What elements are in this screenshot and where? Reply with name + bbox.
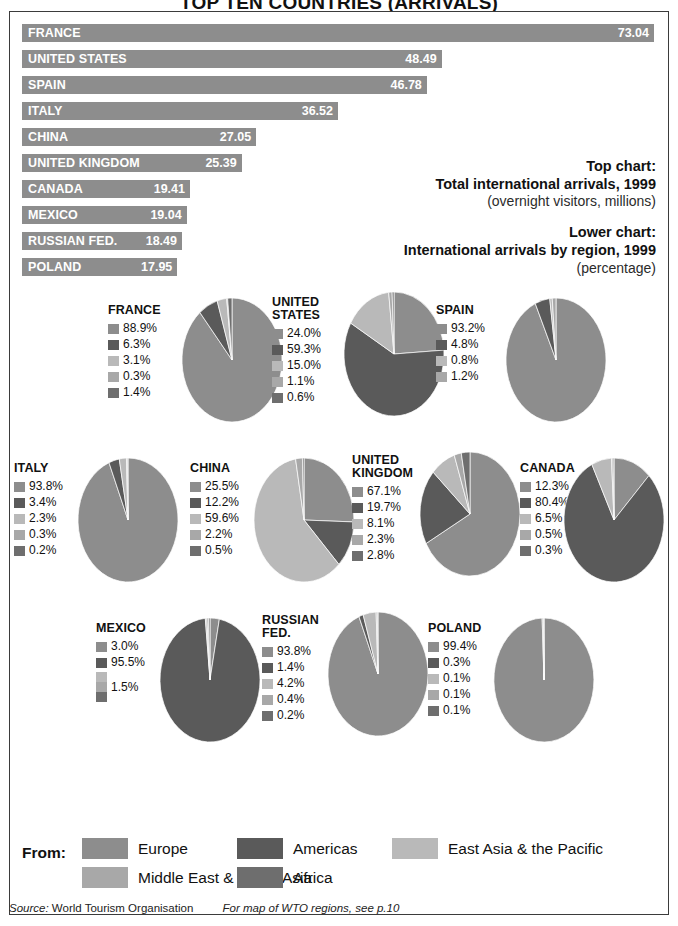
bar-value: 36.52 [302,102,333,120]
pie-legend-value: 0.3% [443,656,470,669]
legend-item-label: Europe [138,840,188,858]
bar: SPAIN46.78 [22,76,427,94]
lower-chart-label: Lower chart: [256,224,656,242]
bar-row: ITALY36.52 [22,102,654,120]
bar-row: UNITED STATES48.49 [22,50,654,68]
infographic-page: TOP TEN COUNTRIES (ARRIVALS) FRANCE73.04… [0,0,678,926]
bar-label: ITALY [28,102,63,120]
lower-chart-title: International arrivals by region, 1999 [256,242,656,260]
bar-value: 73.04 [618,24,649,42]
legend-swatch-icon [428,674,439,684]
lower-chart-subtitle: (percentage) [256,260,656,277]
bar-label: UNITED KINGDOM [28,154,140,172]
bar: POLAND17.95 [22,258,177,276]
bar-label: POLAND [28,258,81,276]
bar: CANADA19.41 [22,180,190,198]
caption-spacer [256,210,656,224]
legend-swatch-icon [428,690,439,700]
bar-value: 18.49 [146,232,177,250]
bar-value: 25.39 [205,154,236,172]
legend-item: Europe [82,838,188,859]
pie-legend-value: 0.1% [443,704,470,717]
legend-swatch-icon [428,642,439,652]
bar-label: RUSSIAN FED. [28,232,117,250]
bar-label: CANADA [28,180,83,198]
bar-label: MEXICO [28,206,78,224]
bar-value: 46.78 [391,76,422,94]
pie-graphic [492,616,596,744]
bar-label: FRANCE [28,24,81,42]
bar: UNITED KINGDOM25.39 [22,154,242,172]
bar-row: FRANCE73.04 [22,24,654,42]
bar-value: 19.04 [150,206,181,224]
pie-legend-value: 99.4% [443,640,477,653]
legend-from-label: From: [22,844,66,862]
bar-row: SPAIN46.78 [22,76,654,94]
bar: UNITED STATES48.49 [22,50,442,68]
legend-item-label: Africa [293,869,333,887]
legend-color-swatch-icon [392,838,438,859]
legend-color-swatch-icon [237,867,283,888]
pie-legend-value: 0.1% [443,688,470,701]
source-line: Source: World Tourism Organisation For m… [9,902,669,914]
legend-swatch-icon [428,706,439,716]
pie-legend-value: 0.1% [443,672,470,685]
legend-color-swatch-icon [82,867,128,888]
legend-item: East Asia & the Pacific [392,838,603,859]
legend-item: Americas [237,838,358,859]
bar-value: 48.49 [405,50,436,68]
legend-color-swatch-icon [237,838,283,859]
legend-item: Africa [237,867,333,888]
top-chart-label: Top chart: [256,158,656,176]
bar: RUSSIAN FED.18.49 [22,232,182,250]
bar: FRANCE73.04 [22,24,654,42]
bar-label: SPAIN [28,76,66,94]
bar-row: CHINA27.05 [22,128,654,146]
bar-value: 19.41 [154,180,185,198]
bar-value: 27.05 [220,128,251,146]
source-label: Source: [9,902,49,914]
legend-color-swatch-icon [82,838,128,859]
legend-item-label: Americas [293,840,358,858]
caption-block: Top chart: Total international arrivals,… [256,158,656,277]
pie-unit: POLAND99.4%0.3%0.1%0.1%0.1% [0,292,678,830]
top-chart-title: Total international arrivals, 1999 [256,176,656,194]
top-chart-subtitle: (overnight visitors, millions) [256,193,656,210]
region-legend: From: EuropeAmericasEast Asia & the Paci… [22,838,654,896]
bar: ITALY36.52 [22,102,338,120]
bar: CHINA27.05 [22,128,256,146]
source-note: For map of WTO regions, see p.10 [223,902,400,914]
legend-swatch-icon [428,658,439,668]
pie-chart-grid: FRANCE88.9%6.3%3.1%0.3%1.4%UNITED STATES… [0,292,678,830]
source-value: World Tourism Organisation [52,902,193,914]
legend-item-label: East Asia & the Pacific [448,840,603,858]
bar: MEXICO19.04 [22,206,187,224]
bar-label: CHINA [28,128,68,146]
bar-value: 17.95 [141,258,172,276]
bar-label: UNITED STATES [28,50,127,68]
